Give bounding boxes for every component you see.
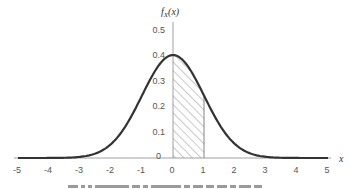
x-tick-label: 0 (169, 165, 174, 175)
y-tick-label: 0.5 (152, 25, 165, 35)
x-tick-label: -5 (13, 165, 21, 175)
x-axis-title: x (338, 153, 344, 164)
figure-caption-clipped (68, 185, 298, 189)
y-tick-label: 0.1 (152, 127, 165, 137)
y-tick-label: 0.4 (152, 50, 165, 60)
x-tick-label: 3 (262, 165, 267, 175)
x-tick-labels: -5 -4 -3 -2 -1 0 1 2 3 4 5 (13, 165, 330, 175)
x-tick-label: 5 (324, 165, 329, 175)
y-tick-label: 0 (156, 151, 161, 161)
x-tick-label: -2 (106, 165, 114, 175)
shaded-area-0-to-1 (173, 55, 204, 158)
normal-distribution-chart: 0 0.1 0.2 0.3 0.4 0.5 -5 -4 -3 -2 -1 0 1… (0, 0, 350, 189)
y-tick-label: 0.2 (152, 101, 165, 111)
x-tick-label: -3 (75, 165, 83, 175)
x-tick-label: -4 (44, 165, 52, 175)
x-tick-label: 2 (231, 165, 236, 175)
x-tick-label: 4 (293, 165, 298, 175)
y-tick-label: 0.3 (152, 76, 165, 86)
x-tick-label: -1 (137, 165, 145, 175)
y-axis-title: fX(x) (161, 6, 180, 19)
y-tick-labels: 0 0.1 0.2 0.3 0.4 0.5 (152, 25, 165, 161)
x-tick-label: 1 (200, 165, 205, 175)
